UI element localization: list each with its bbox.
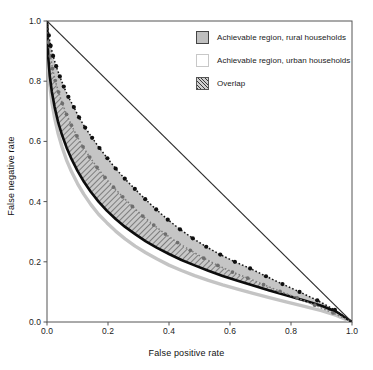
xtick-label: 1.0 bbox=[346, 326, 358, 336]
ytick-label: 0.6 bbox=[15, 136, 41, 146]
xtick-label: 0.8 bbox=[285, 326, 297, 336]
y-axis-title: False negative rate bbox=[6, 111, 16, 241]
chart-legend: Achievable region, rural households Achi… bbox=[196, 25, 352, 98]
ytick-label: 0.2 bbox=[15, 257, 41, 267]
xtick-label: 0.4 bbox=[163, 326, 175, 336]
legend-item-overlap: Overlap bbox=[196, 73, 352, 94]
legend-label-rural: Achievable region, rural households bbox=[217, 33, 346, 42]
x-axis-title: False positive rate bbox=[0, 348, 373, 358]
ytick-label: 1.0 bbox=[15, 16, 41, 26]
legend-label-overlap: Overlap bbox=[217, 79, 245, 88]
legend-item-rural: Achievable region, rural households bbox=[196, 27, 352, 48]
legend-swatch-rural-icon bbox=[196, 31, 209, 44]
legend-swatch-urban-icon bbox=[196, 54, 209, 67]
roc-figure: 0.0 0.2 0.4 0.6 0.8 1.0 0.0 0.2 0.4 0.6 … bbox=[0, 0, 373, 370]
ytick-label: 0.0 bbox=[15, 317, 41, 327]
legend-swatch-overlap-icon bbox=[196, 77, 209, 90]
xtick-label: 0.2 bbox=[102, 326, 114, 336]
legend-label-urban: Achievable region, urban households bbox=[217, 56, 350, 65]
xtick-label: 0.6 bbox=[224, 326, 236, 336]
ytick-label: 0.4 bbox=[15, 197, 41, 207]
legend-item-urban: Achievable region, urban households bbox=[196, 50, 352, 71]
ytick-label: 0.8 bbox=[15, 76, 41, 86]
xtick-label: 0.0 bbox=[41, 326, 53, 336]
